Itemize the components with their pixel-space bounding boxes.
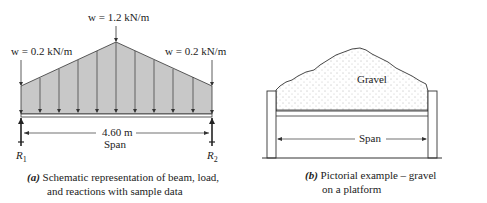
right-load-label: w = 0.2 kN/m — [165, 46, 226, 57]
span-label-a: Span — [104, 139, 126, 150]
caption-a: (a) Schematic representation of beam, lo… — [27, 170, 219, 198]
reaction-r2-label: R2 — [207, 150, 218, 164]
span-length-label: 4.60 m — [102, 127, 133, 138]
gravel-label: Gravel — [357, 74, 387, 85]
gravel-platform-illustration — [262, 48, 442, 158]
left-load-label: w = 0.2 kN/m — [11, 46, 72, 57]
reaction-r1-label: R1 — [16, 150, 27, 164]
center-load-label: w = 1.2 kN/m — [88, 12, 149, 23]
span-label-b: Span — [359, 133, 381, 144]
caption-b: (b) Pictorial example – gravelon a platf… — [305, 168, 436, 196]
